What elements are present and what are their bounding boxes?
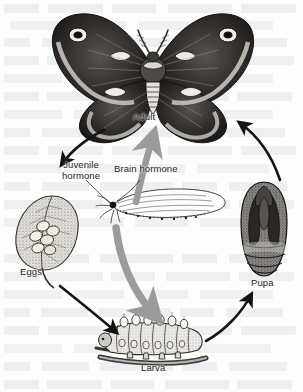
schematic-larva-diagram [96,189,225,223]
label-adult: Adult [133,112,155,123]
adult-moth-illustration [52,14,253,143]
life-cycle-illustration [0,0,303,392]
label-larva: Larva [141,363,165,374]
label-juvenile-hormone: Juvenile hormone [57,160,105,181]
arrow-pupa-to-adult [240,123,280,180]
label-brain-hormone: Brain hormone [114,164,178,175]
life-cycle-figure: Adult Eggs Larva Pupa Juvenile hormone B… [0,0,303,392]
pupa-illustration [241,182,287,276]
arrow-larva-to-pupa [206,295,251,341]
label-pupa: Pupa [251,278,274,289]
arrow-eggs-to-larva [60,286,116,332]
label-eggs: Eggs [20,267,42,278]
arrow-juvenile-hormone-to-larva [116,228,152,312]
larva-illustration [96,311,206,363]
